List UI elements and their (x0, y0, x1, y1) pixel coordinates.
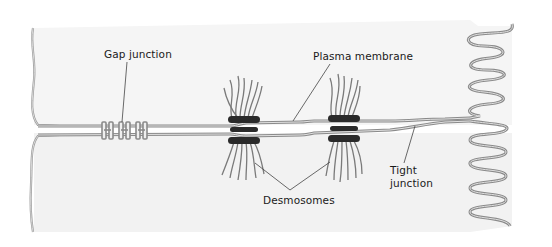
lower-cell-body (34, 133, 512, 232)
upper-cell-body (34, 20, 512, 125)
tight-junction-label-line1: Tight (390, 164, 417, 176)
diagram-artwork (0, 0, 552, 247)
gap-junction-label: Gap junction (104, 48, 172, 60)
tight-junction-label-line2: junction (390, 177, 433, 189)
cell-junction-diagram: Gap junction Plasma membrane Desmosomes … (0, 0, 552, 247)
desmosomes-label: Desmosomes (263, 194, 335, 206)
plasma-membrane-label: Plasma membrane (313, 50, 413, 62)
